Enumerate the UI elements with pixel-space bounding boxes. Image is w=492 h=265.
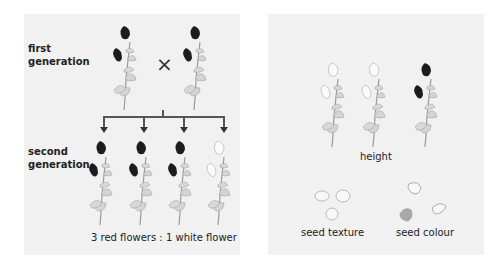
second-gen-plant-3 — [168, 141, 191, 225]
second-gen-plant-4 — [207, 141, 230, 225]
second-gen-plant-1 — [89, 141, 112, 225]
offspring-arrows — [100, 110, 228, 133]
seed-texture-seeds — [315, 190, 350, 220]
height-plant-short-white — [321, 63, 344, 147]
height-plant-tall-white — [362, 63, 385, 147]
seed-colour-seeds — [400, 183, 446, 221]
first-gen-plant-2 — [183, 26, 206, 110]
first-gen-plant-1 — [113, 26, 136, 110]
second-gen-plant-2 — [129, 141, 152, 225]
height-plant-short-red — [414, 63, 437, 147]
illustration-layer — [0, 0, 492, 265]
